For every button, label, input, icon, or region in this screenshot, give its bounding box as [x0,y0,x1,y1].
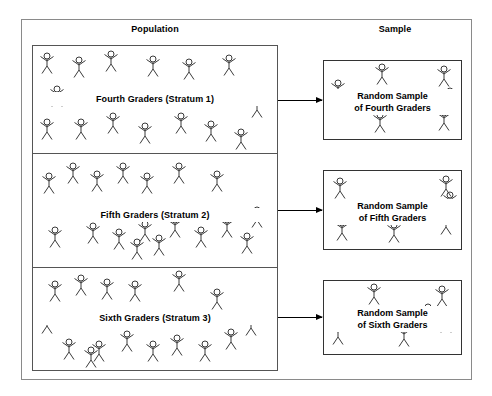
stick-figure-icon [39,118,55,140]
stick-figure-icon [127,280,143,302]
stick-figure-icon [103,50,119,72]
sample-label-line2: of Fifth Graders [324,212,461,224]
stick-figure-icon [181,58,197,80]
stick-figure-icon [171,270,187,292]
sample-box-fourth-graders: Random Sample of Fourth Graders [323,60,462,140]
stick-figure-icon [83,346,99,368]
stick-figure-icon [73,118,89,140]
stick-figure-icon [139,172,155,194]
arrow-stratum-2-to-sample-2 [278,210,322,211]
stick-figure-icon [145,340,161,362]
stick-figure-icon [197,340,213,362]
stick-figure-icon [233,128,249,150]
stratum-box-sixth-graders: Sixth Graders (Stratum 3) [33,267,277,372]
stratum-label-fifth-graders: Fifth Graders (Stratum 2) [33,210,277,220]
stick-figure-icon [71,56,87,78]
stick-figure-icon [434,285,450,307]
stick-figure-icon [239,232,255,254]
stick-figure-icon [223,328,239,350]
stick-figure-icon [436,65,452,87]
stick-figure-icon [47,280,63,302]
stick-figure-icon [203,120,219,142]
sample-label-line1: Random Sample [324,307,461,319]
stick-figure-icon [99,278,115,300]
sample-box-fifth-graders: Random Sample of Fifth Graders [323,170,462,250]
stick-figure-icon [65,162,81,184]
stratum-box-fifth-graders: Fifth Graders (Stratum 2) [33,153,277,267]
stick-figure-icon [374,63,390,85]
stick-figure-icon [89,170,105,192]
stick-figure-icon [105,112,121,134]
stratum-label-sixth-graders: Sixth Graders (Stratum 3) [33,313,277,323]
sample-label-line2: of Sixth Graders [324,319,461,331]
stick-figure-icon [151,234,167,256]
stick-figure-icon [115,162,131,184]
stick-figure-icon [171,162,187,184]
population-container: Fourth Graders (Stratum 1) Fifth Graders… [32,45,278,371]
sample-label-line1: Random Sample [324,200,461,212]
sample-label-fifth-graders: Random Sample of Fifth Graders [324,200,461,224]
sample-column-heading: Sample [350,24,440,34]
stratified-sampling-diagram: Population Sample Fourth Graders (Stratu… [0,0,492,396]
stick-figure-icon [41,172,57,194]
stick-figure-icon [221,54,237,76]
arrow-stratum-3-to-sample-3 [278,317,322,318]
stick-figure-icon [169,334,185,356]
stick-figure-icon [332,177,348,199]
stick-figure-icon [119,330,135,352]
stick-figure-icon [39,52,55,74]
stick-figure-icon [137,122,153,144]
sample-label-sixth-graders: Random Sample of Sixth Graders [324,307,461,331]
sample-label-line1: Random Sample [324,90,461,102]
stick-figure-icon [209,170,225,192]
stick-figure-icon [111,228,127,250]
stick-figure-icon [366,283,382,305]
sample-label-fourth-graders: Random Sample of Fourth Graders [324,90,461,114]
stick-figure-icon [129,238,145,260]
stick-figure-icon [173,112,189,134]
stick-figure-icon [61,338,77,360]
stick-figure-icon [209,288,225,310]
stick-figure-icon [73,274,89,296]
stick-figure-icon [85,222,101,244]
arrow-stratum-1-to-sample-1 [278,100,322,101]
stick-figure-icon [47,226,63,248]
stick-figure-icon [193,226,209,248]
population-column-heading: Population [95,24,215,34]
sample-label-line2: of Fourth Graders [324,102,461,114]
sample-box-sixth-graders: Random Sample of Sixth Graders [323,280,462,355]
stratum-box-fourth-graders: Fourth Graders (Stratum 1) [33,46,277,153]
stratum-label-fourth-graders: Fourth Graders (Stratum 1) [33,94,277,104]
stick-figure-icon [145,55,161,77]
